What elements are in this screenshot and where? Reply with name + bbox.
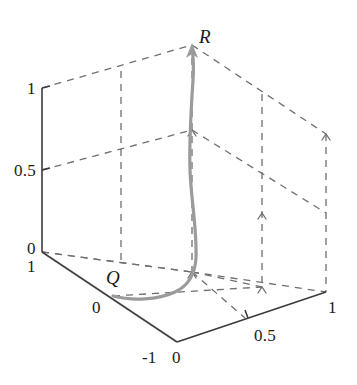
grid-left-z-half xyxy=(42,130,192,170)
axis-tick-marks xyxy=(42,86,248,318)
grid-base-mid-diagonal xyxy=(113,287,262,296)
y-tick-label-one: 1 xyxy=(27,258,36,275)
z-tick-label-one: 1 xyxy=(27,80,36,97)
grid-tick-arrows xyxy=(188,130,330,293)
x-tick-half xyxy=(245,310,248,318)
solid-axes xyxy=(42,88,326,342)
grid-right-z-half xyxy=(192,130,326,213)
space-curve-path xyxy=(113,48,196,299)
x-axis-line xyxy=(177,292,326,342)
grid-base-right-diagonal xyxy=(192,272,262,287)
y-tick-label-zero: 0 xyxy=(92,299,101,316)
grid-top-right-edge xyxy=(192,45,326,134)
x-tick-label-half: 0.5 xyxy=(254,327,276,344)
x-tick-label-minus-one: -1 xyxy=(142,349,157,366)
dashed-grid-lines xyxy=(42,45,326,318)
x-tick-label-zero: 0 xyxy=(172,349,181,366)
space-curve-group xyxy=(113,43,198,299)
z-tick-label-zero: 0 xyxy=(27,240,36,257)
point-label-r: R xyxy=(199,27,211,46)
x-tick-label-one: 1 xyxy=(328,299,337,316)
tick-arrow-right-mid-base xyxy=(258,287,266,293)
three-d-plot-figure: 1 0.5 0 1 0 -1 0 0.5 1 Q R xyxy=(0,0,357,385)
z-tick-one xyxy=(42,86,50,88)
grid-top-left-edge xyxy=(42,45,192,88)
point-label-q: Q xyxy=(106,268,120,287)
plot-canvas xyxy=(0,0,357,385)
z-tick-label-half: 0.5 xyxy=(14,162,36,179)
z-tick-half xyxy=(42,168,50,170)
